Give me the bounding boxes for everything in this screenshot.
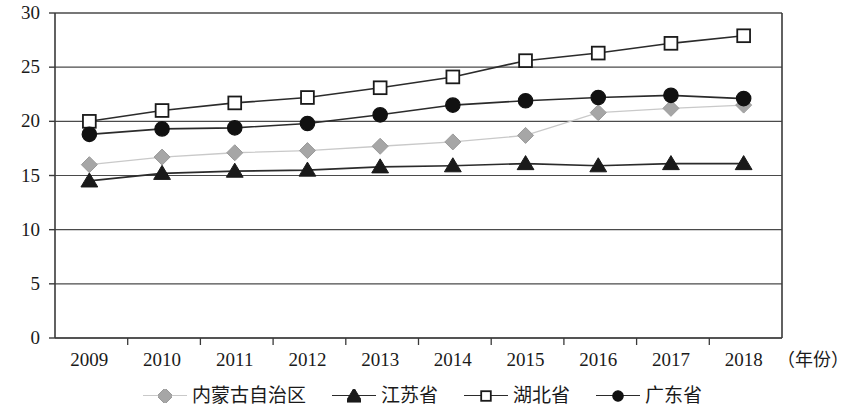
data-point-circle [82, 127, 96, 141]
data-point-circle [591, 90, 605, 104]
legend-marker-glyph [479, 389, 493, 403]
x-tick-label: 2012 [272, 350, 342, 369]
data-point-circle [155, 122, 169, 136]
legend-label: 广东省 [645, 386, 702, 405]
data-point-circle [518, 94, 532, 108]
series-湖北省 [83, 29, 750, 127]
data-point-triangle [226, 163, 243, 177]
data-point-diamond [81, 157, 97, 173]
legend-marker-diamond-icon [143, 389, 187, 403]
legend-label: 江苏省 [381, 386, 438, 405]
y-tick-label: 10 [4, 220, 40, 239]
series-line [89, 95, 743, 134]
legend-marker-square-icon [464, 389, 508, 403]
x-tick-label: 2014 [418, 350, 488, 369]
series-line [89, 105, 743, 165]
legend-marker-glyph [347, 389, 361, 403]
data-point-diamond [158, 389, 172, 403]
legend-marker-glyph [158, 389, 172, 403]
x-axis-caption: （年份） [777, 351, 844, 369]
legend-marker-circle-icon [596, 389, 640, 403]
line-chart: 302520151050 200920102011201220132014201… [0, 0, 844, 417]
data-point-circle [300, 116, 314, 130]
series-江苏省 [81, 156, 752, 187]
data-point-triangle [347, 389, 361, 402]
data-point-square [446, 71, 459, 84]
x-tick-label: 2011 [200, 350, 270, 369]
data-point-circle [373, 108, 387, 122]
legend-item-江苏省[interactable]: 江苏省 [332, 386, 438, 405]
y-tick-label: 20 [4, 111, 40, 130]
data-point-triangle [372, 159, 389, 173]
data-point-diamond [154, 149, 170, 165]
legend-item-广东省[interactable]: 广东省 [596, 386, 702, 405]
data-point-square [301, 91, 314, 104]
series-line [89, 164, 743, 181]
data-point-square [83, 115, 96, 128]
y-tick-label: 0 [4, 328, 40, 347]
data-point-square [481, 391, 491, 401]
data-point-diamond [590, 105, 606, 121]
data-point-diamond [299, 143, 315, 159]
series-line [89, 36, 743, 122]
legend-marker-triangle-icon [332, 389, 376, 403]
data-point-circle [228, 121, 242, 135]
chart-legend: 内蒙古自治区江苏省湖北省广东省 [0, 386, 844, 405]
data-point-square [228, 97, 241, 110]
y-tick-label: 15 [4, 166, 40, 185]
data-point-circle [446, 98, 460, 112]
y-tick-label: 5 [4, 274, 40, 293]
data-point-square [665, 37, 678, 50]
legend-label: 内蒙古自治区 [192, 386, 306, 405]
plot-area [0, 0, 844, 380]
data-point-square [156, 104, 169, 117]
y-tick-label: 30 [4, 3, 40, 22]
data-point-triangle [663, 156, 680, 170]
x-tick-label: 2016 [563, 350, 633, 369]
data-point-triangle [517, 156, 534, 170]
data-point-diamond [372, 138, 388, 154]
data-point-circle [736, 91, 750, 105]
x-tick-label: 2018 [709, 350, 779, 369]
legend-marker-glyph [611, 389, 625, 403]
legend-item-湖北省[interactable]: 湖北省 [464, 386, 570, 405]
x-tick-label: 2017 [636, 350, 706, 369]
series-广东省 [82, 88, 751, 141]
y-tick-label: 25 [4, 57, 40, 76]
data-point-square [592, 47, 605, 60]
data-point-circle [612, 390, 622, 400]
x-tick-label: 2009 [54, 350, 124, 369]
x-tick-label: 2010 [127, 350, 197, 369]
data-point-square [737, 29, 750, 42]
legend-label: 湖北省 [513, 386, 570, 405]
x-tick-label: 2015 [491, 350, 561, 369]
legend-item-内蒙古自治区[interactable]: 内蒙古自治区 [143, 386, 306, 405]
data-point-diamond [227, 145, 243, 161]
data-point-circle [664, 88, 678, 102]
data-point-diamond [518, 127, 534, 143]
data-point-diamond [445, 134, 461, 150]
x-tick-label: 2013 [345, 350, 415, 369]
data-point-square [519, 54, 532, 67]
data-point-square [374, 81, 387, 94]
data-point-triangle [735, 156, 752, 170]
